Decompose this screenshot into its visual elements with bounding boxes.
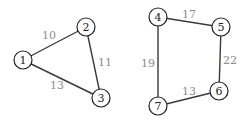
edge-weight-2-3: 11: [98, 56, 112, 69]
node-5: 5: [212, 18, 230, 36]
node-7: 7: [149, 97, 167, 115]
graph-canvas: 101113123172219134567: [0, 0, 244, 125]
node-6: 6: [210, 82, 228, 100]
graph-diagram: 101113123172219134567: [0, 0, 244, 125]
edge-5-6: [219, 27, 221, 91]
node-label: 2: [83, 21, 90, 34]
edge-weight-4-7: 19: [141, 57, 155, 70]
node-label: 3: [98, 92, 105, 105]
edge-weight-5-6: 22: [223, 54, 237, 67]
node-2: 2: [77, 18, 95, 36]
node-label: 5: [218, 21, 225, 34]
node-label: 4: [155, 11, 162, 24]
edge-weight-1-2: 10: [42, 29, 56, 42]
edge-weight-1-3: 13: [50, 79, 64, 92]
node-label: 6: [216, 85, 223, 98]
node-label: 7: [155, 100, 162, 113]
node-3: 3: [92, 89, 110, 107]
node-1: 1: [14, 51, 32, 69]
node-label: 1: [20, 54, 27, 67]
triangle-graph: 101113123: [14, 18, 112, 107]
edge-weight-4-5: 17: [182, 8, 196, 21]
edge-weight-7-6: 13: [182, 85, 196, 98]
node-4: 4: [149, 8, 167, 26]
quadrilateral-graph: 172219134567: [141, 8, 237, 116]
